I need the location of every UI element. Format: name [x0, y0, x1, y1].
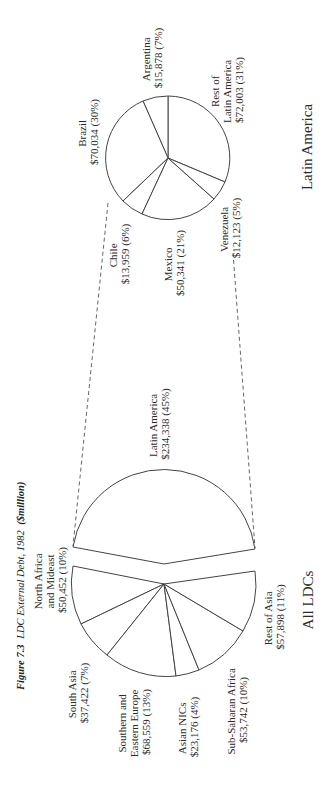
pie-all-ldcs	[71, 469, 256, 676]
label-se-europe: Southern and Eastern Europe $68,559 (13%…	[116, 687, 153, 757]
pie-latin-america	[106, 96, 230, 220]
label-brazil: Brazil $70,034 (30%)	[76, 99, 101, 165]
connector-line-right	[233, 253, 255, 548]
label-venezuela: Venezuela $12,123 (5%)	[218, 197, 243, 258]
label-south-asia: South Asia $37,422 (7%)	[66, 662, 91, 723]
caption-all-ldcs: All LDCs	[300, 570, 316, 629]
label-argentina: Argentina $15,878 (7%)	[140, 27, 165, 88]
label-mexico: Mexico $50,341 (21%)	[162, 230, 187, 296]
label-asian-nics: Asian NICs $23,176 (4%)	[176, 696, 201, 757]
label-latin-america-slice: Latin America $234,338 (45%)	[147, 388, 172, 460]
caption-latin-america: Latin America	[299, 104, 315, 191]
label-rest-la: Rest of Latin America $72,003 (31%)	[209, 57, 246, 123]
label-chile: Chile $13,959 (6%)	[107, 223, 132, 284]
label-sub-saharan: Sub-Saharan Africa $53,742 (10%)	[225, 665, 250, 754]
label-rest-asia: Rest of Asia $57,898 (11%)	[262, 584, 287, 650]
figure-title: Figure 7.3 LDC External Debt, 1982 ($mil…	[15, 482, 27, 691]
slice-latin-america	[73, 469, 255, 564]
label-north-africa: North Africa and Mideast $50,452 (10%)	[32, 547, 69, 613]
figure-canvas: Figure 7.3 LDC External Debt, 1982 ($mil…	[0, 0, 326, 797]
